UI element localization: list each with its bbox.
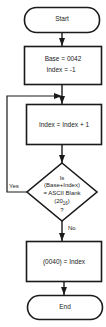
yes-label: Yes — [9, 182, 19, 190]
decision-question-mark: ? — [27, 206, 97, 214]
end-label: End — [27, 303, 103, 311]
increment-label: Index = Index + 1 — [26, 121, 102, 129]
store-label: (0040) = Index — [26, 258, 102, 266]
hex-close-paren: ) — [68, 198, 70, 204]
flowchart-canvas — [0, 0, 106, 327]
hex-value: (20 — [54, 198, 63, 204]
init-line-base: Base = 0042 — [24, 55, 102, 63]
decision-line-expr: (Base+Index) — [27, 181, 97, 189]
init-line-index: Index = -1 — [22, 66, 100, 74]
decision-line-ascii: = ASCII Blank — [27, 189, 97, 197]
start-label: Start — [24, 15, 100, 23]
no-label: No — [68, 224, 76, 232]
